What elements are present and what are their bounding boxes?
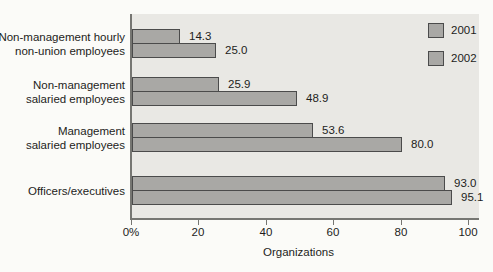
x-tick-label: 40 — [260, 226, 273, 238]
x-axis-title: Organizations — [130, 246, 467, 258]
category-label-line: non-union employees — [0, 44, 125, 58]
x-tick-label: 80 — [395, 226, 408, 238]
bar-2002-4 — [132, 190, 452, 205]
category-label-4: Officers/executives — [28, 184, 125, 198]
x-tick-mark — [266, 220, 267, 225]
value-label-2001-3: 53.6 — [322, 123, 344, 138]
x-tick-mark — [468, 220, 469, 225]
x-tick-label: 60 — [327, 226, 340, 238]
legend-label: 2001 — [451, 23, 477, 38]
value-label-2002-2: 48.9 — [306, 91, 328, 106]
x-tick-mark — [333, 220, 334, 225]
value-label-2001-4: 93.0 — [454, 176, 476, 191]
category-label-line: salaried employees — [26, 92, 125, 106]
x-tick-label: 100 — [458, 226, 477, 238]
value-label-2001-1: 14.3 — [189, 29, 211, 44]
category-label-line: Management — [26, 124, 125, 138]
value-label-2002-1: 25.0 — [225, 43, 247, 58]
x-tick-mark — [198, 220, 199, 225]
bar-2001-4 — [132, 176, 445, 191]
category-label-1: Non-management hourlynon-union employees — [0, 30, 125, 58]
legend-swatch-icon — [428, 23, 444, 38]
value-label-2002-4: 95.1 — [461, 190, 483, 205]
x-tick-mark — [131, 220, 132, 225]
legend-swatch-icon — [428, 51, 444, 66]
legend-entry-2001: 2001 — [428, 23, 477, 38]
value-label-2001-2: 25.9 — [228, 77, 250, 92]
bar-chart: 14.325.025.948.953.680.093.095.1 Non-man… — [0, 0, 493, 272]
x-tick-mark — [401, 220, 402, 225]
bar-2001-3 — [132, 123, 313, 138]
bar-2001-2 — [132, 77, 219, 92]
legend-entry-2002: 2002 — [428, 51, 477, 66]
bar-2002-2 — [132, 91, 297, 106]
x-tick-label: 20 — [192, 226, 205, 238]
bar-2002-3 — [132, 137, 402, 152]
plot-area: 14.325.025.948.953.680.093.095.1 — [130, 14, 479, 220]
x-tick-label: 0% — [123, 226, 140, 238]
legend-label: 2002 — [451, 51, 477, 66]
category-label-line: Officers/executives — [28, 184, 125, 198]
category-label-3: Managementsalaried employees — [26, 124, 125, 152]
value-label-2002-3: 80.0 — [411, 137, 433, 152]
category-label-line: Non-management hourly — [0, 30, 125, 44]
category-label-2: Non-managementsalaried employees — [26, 78, 125, 106]
category-label-line: Non-management — [26, 78, 125, 92]
bar-2002-1 — [132, 43, 216, 58]
category-label-line: salaried employees — [26, 138, 125, 152]
bar-2001-1 — [132, 29, 180, 44]
